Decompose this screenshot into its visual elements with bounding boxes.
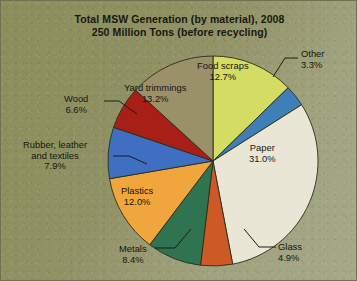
slice-label-rubber-value: 7.9% <box>23 161 87 172</box>
slice-label-other-name: Other <box>301 49 324 60</box>
slice-label-plastics: Plastics 12.0% <box>121 186 153 207</box>
slice-label-rubber-name-line-1: Rubber, leather <box>23 140 87 151</box>
slice-label-food-scraps-name: Food scraps <box>197 61 249 72</box>
slice-label-yard-trimmings-value: 13.2% <box>124 94 186 105</box>
slice-label-food-scraps: Food scraps 12.7% <box>197 61 249 82</box>
slice-label-glass-value: 4.9% <box>278 253 302 264</box>
slice-label-metals-name: Metals <box>119 244 147 255</box>
slice-label-glass-name: Glass <box>278 242 302 253</box>
slice-label-wood: Wood 6.6% <box>64 94 88 115</box>
slice-label-paper-name: Paper <box>249 143 276 154</box>
leader-line-other <box>273 58 298 77</box>
slice-label-metals: Metals 8.4% <box>119 244 147 265</box>
slice-label-other-value: 3.3% <box>301 60 324 71</box>
slice-label-other: Other 3.3% <box>301 49 324 70</box>
slice-label-yard-trimmings: Yard trimmings 13.2% <box>124 83 186 104</box>
slice-label-paper: Paper 31.0% <box>249 143 276 164</box>
slice-label-rubber-leather-textiles: Rubber, leather and textiles 7.9% <box>23 140 87 172</box>
slice-label-wood-value: 6.6% <box>64 105 88 116</box>
slice-label-metals-value: 8.4% <box>119 255 147 266</box>
slice-label-yard-trimmings-name: Yard trimmings <box>124 83 186 94</box>
slice-label-paper-value: 31.0% <box>249 154 276 165</box>
slice-label-wood-name: Wood <box>64 94 88 105</box>
slice-label-glass: Glass 4.9% <box>278 242 302 263</box>
slice-label-plastics-value: 12.0% <box>121 197 153 208</box>
slice-label-food-scraps-value: 12.7% <box>197 72 249 83</box>
slice-label-plastics-name: Plastics <box>121 186 153 197</box>
pie-chart-figure: Total MSW Generation (by material), 2008… <box>0 0 357 281</box>
